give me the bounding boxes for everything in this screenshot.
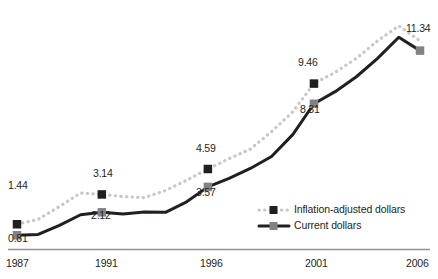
legend-label-current-dollars: Current dollars [294,220,361,231]
value-label-inflation-2001: 9.46 [298,57,318,68]
line-chart: 1.44 0.81 3.14 2.12 4.59 3.57 9.46 8.31 … [0,0,438,279]
legend-marker-inflation-adjusted-dollars [270,206,278,214]
x-tick-label-2006: 2006 [406,258,429,269]
legend-label-inflation-adjusted-dollars: Inflation-adjusted dollars [294,204,405,215]
data-point-marker [204,165,213,174]
x-tick-label-1991: 1991 [95,258,118,269]
data-point-marker [310,79,319,88]
data-point-marker [13,220,22,229]
value-label-current-1996: 3.57 [196,187,216,198]
x-tick-label-2001: 2001 [305,258,328,269]
data-point-marker [416,46,425,55]
value-label-inflation-1991: 3.14 [93,168,113,179]
legend-marker-current-dollars [270,222,278,230]
data-point-marker [98,190,107,199]
value-label-current-1987: 0.81 [8,233,28,244]
x-tick-label-1996: 1996 [200,258,223,269]
value-label-current-2006: 11.34 [406,23,431,34]
value-label-current-1991: 2.12 [91,210,111,221]
x-tick-label-1987: 1987 [6,258,29,269]
value-label-current-2001: 8.31 [300,104,320,115]
series-line-inflation-adjusted-dollars [17,26,420,224]
value-label-inflation-1987: 1.44 [8,180,28,191]
value-label-inflation-1996: 4.59 [196,143,216,154]
legend-swatches [259,206,289,230]
chart-plot-area [0,0,438,279]
